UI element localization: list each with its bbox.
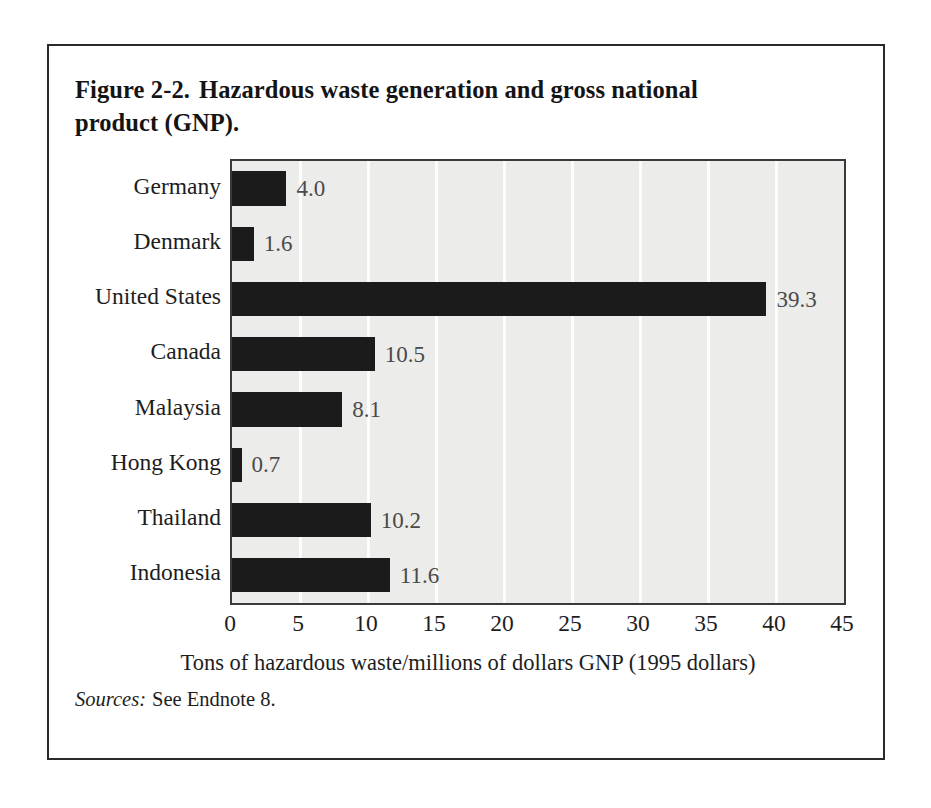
plot-area: 4.01.639.310.58.10.710.211.6: [230, 159, 846, 605]
source-note: Sources:See Endnote 8.: [75, 688, 276, 711]
bar-row: 10.5: [232, 337, 844, 371]
source-label: Sources:: [75, 688, 146, 710]
category-label-denmark: Denmark: [49, 230, 221, 254]
category-label-hong-kong: Hong Kong: [49, 451, 221, 475]
bar-value-label: 4.0: [296, 177, 325, 200]
x-tick-label: 20: [490, 612, 514, 636]
bar-value-label: 10.5: [385, 343, 425, 366]
x-tick-label: 5: [292, 612, 304, 636]
bar-denmark: [232, 227, 254, 261]
bar-row: 1.6: [232, 227, 844, 261]
bar-germany: [232, 171, 286, 205]
bar-chart: GermanyDenmarkUnited StatesCanadaMalaysi…: [49, 150, 887, 695]
x-axis-tick-labels: 051015202530354045: [230, 612, 846, 646]
bar-row: 0.7: [232, 448, 844, 482]
bar-thailand: [232, 503, 371, 537]
x-tick-label: 10: [354, 612, 378, 636]
category-label-indonesia: Indonesia: [49, 561, 221, 585]
category-axis-labels: GermanyDenmarkUnited StatesCanadaMalaysi…: [49, 159, 221, 605]
bar-row: 4.0: [232, 171, 844, 205]
figure-caption-number: Figure 2-2.: [75, 76, 190, 103]
category-label-united-states: United States: [49, 285, 221, 309]
bar-value-label: 1.6: [264, 232, 293, 255]
x-tick-label: 0: [224, 612, 236, 636]
bar-row: 8.1: [232, 392, 844, 426]
x-tick-label: 45: [830, 612, 854, 636]
x-tick-label: 40: [762, 612, 786, 636]
source-text: See Endnote 8.: [152, 688, 276, 710]
bar-value-label: 8.1: [352, 398, 381, 421]
bar-row: 10.2: [232, 503, 844, 537]
bar-hong-kong: [232, 448, 242, 482]
bar-row: 11.6: [232, 558, 844, 592]
figure-frame: Figure 2-2.Hazardous waste generation an…: [47, 44, 885, 760]
x-tick-label: 15: [422, 612, 446, 636]
bar-united-states: [232, 282, 766, 316]
bar-value-label: 10.2: [381, 509, 421, 532]
bar-canada: [232, 337, 375, 371]
category-label-thailand: Thailand: [49, 506, 221, 530]
bar-value-label: 39.3: [776, 288, 816, 311]
bar-value-label: 11.6: [400, 564, 439, 587]
x-tick-label: 35: [694, 612, 718, 636]
x-tick-label: 25: [558, 612, 582, 636]
bars-layer: 4.01.639.310.58.10.710.211.6: [232, 161, 844, 603]
bar-value-label: 0.7: [252, 453, 281, 476]
bar-row: 39.3: [232, 282, 844, 316]
figure-caption: Figure 2-2.Hazardous waste generation an…: [75, 74, 775, 139]
category-label-canada: Canada: [49, 340, 221, 364]
x-tick-label: 30: [626, 612, 650, 636]
x-axis-title: Tons of hazardous waste/millions of doll…: [49, 650, 887, 676]
category-label-germany: Germany: [49, 175, 221, 199]
bar-indonesia: [232, 558, 390, 592]
category-label-malaysia: Malaysia: [49, 396, 221, 420]
bar-malaysia: [232, 392, 342, 426]
